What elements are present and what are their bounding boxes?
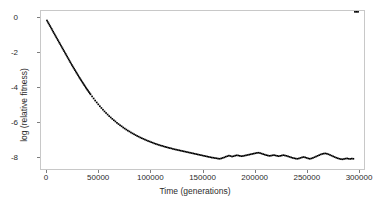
y-tick-label: 0 — [14, 12, 18, 21]
x-tick-label: 250000 — [293, 173, 320, 182]
x-tick-label: 150000 — [189, 173, 216, 182]
plot-canvas — [41, 11, 364, 169]
x-tick-label: 50000 — [87, 173, 109, 182]
figure-container: 0-2-4-6-8 050000100000150000200000250000… — [0, 0, 390, 209]
y-tick-mark — [37, 122, 40, 123]
y-axis-label: log (relative fitness) — [19, 30, 29, 180]
x-tick-label: 300000 — [346, 173, 373, 182]
caption-text — [0, 203, 390, 209]
x-tick-label: 100000 — [137, 173, 164, 182]
x-tick-label: 0 — [44, 173, 48, 182]
y-tick-mark — [37, 52, 40, 53]
x-tick-label: 200000 — [241, 173, 268, 182]
y-tick-mark — [37, 157, 40, 158]
x-axis-label: Time (generations) — [0, 186, 390, 196]
y-tick-mark — [37, 17, 40, 18]
y-tick-label: -8 — [11, 152, 18, 161]
y-tick-label: -6 — [11, 117, 18, 126]
plot-frame — [40, 10, 365, 170]
y-tick-label: -4 — [11, 82, 18, 91]
y-tick-mark — [37, 87, 40, 88]
y-tick-label: -2 — [11, 47, 18, 56]
